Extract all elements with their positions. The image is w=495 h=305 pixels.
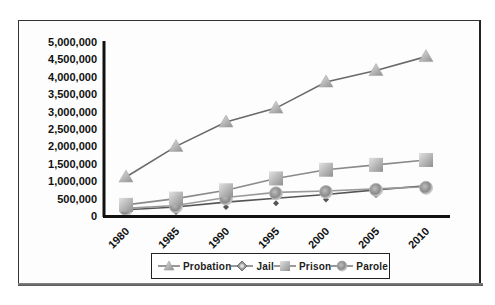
legend-label: Probation — [183, 261, 231, 272]
y-tick-label: 3,000,000 — [48, 106, 97, 118]
prison-data-point — [319, 163, 333, 177]
y-tick-label: 1,500,000 — [48, 158, 97, 170]
x-tick-label: 1995 — [256, 225, 282, 251]
x-tick-label: 2010 — [406, 225, 432, 251]
legend-item-parole: Parole — [331, 260, 388, 272]
probation-data-point — [119, 170, 133, 182]
y-tick-label: 5,000,000 — [48, 36, 97, 48]
x-tick-label: 1985 — [156, 225, 182, 251]
x-tick-label: 2000 — [306, 225, 332, 251]
bottom-rule — [18, 283, 483, 286]
circle-marker-icon — [331, 260, 353, 272]
y-tick-label: 500,000 — [57, 193, 97, 205]
diamond-marker-icon — [231, 260, 253, 272]
legend-label: Prison — [299, 261, 331, 272]
y-tick-label: 2,000,000 — [48, 140, 97, 152]
prison-data-point — [169, 192, 183, 206]
chart-legend: Probation Jail Prison Parole — [151, 253, 390, 279]
prison-data-point — [219, 183, 233, 197]
x-tick-label: 2005 — [356, 225, 382, 251]
prison-data-point — [269, 171, 283, 185]
x-tick-label: 1980 — [106, 225, 132, 251]
x-tick-label: 1990 — [206, 225, 232, 251]
probation-data-point — [269, 101, 283, 113]
triangle-marker-icon — [158, 260, 180, 272]
y-tick-label: 4,500,000 — [48, 53, 97, 65]
prison-data-point — [419, 153, 433, 167]
legend-item-jail: Jail — [231, 260, 273, 272]
series-group — [119, 50, 433, 218]
y-axis-ticks: 0500,0001,000,0001,500,0002,000,0002,500… — [48, 36, 97, 222]
parole-data-point — [370, 183, 383, 196]
jail-data-point — [273, 200, 279, 206]
prison-data-point — [369, 158, 383, 172]
y-tick-label: 3,500,000 — [48, 88, 97, 100]
probation-data-point — [169, 139, 183, 151]
parole-data-point — [270, 187, 283, 200]
parole-data-point — [420, 181, 433, 194]
x-axis-ticks: 1980198519901995200020052010 — [106, 225, 432, 251]
y-tick-label: 1,000,000 — [48, 175, 97, 187]
probation-data-point — [419, 50, 433, 62]
legend-label: Parole — [356, 261, 388, 272]
legend-label: Jail — [256, 261, 273, 272]
legend-item-prison: Prison — [274, 260, 331, 272]
y-tick-label: 2,500,000 — [48, 123, 97, 135]
prison-data-point — [119, 198, 133, 212]
square-marker-icon — [274, 260, 296, 272]
y-tick-label: 4,000,000 — [48, 71, 97, 83]
parole-data-point — [320, 185, 333, 198]
y-tick-label: 0 — [91, 210, 97, 222]
legend-item-probation: Probation — [158, 260, 231, 272]
